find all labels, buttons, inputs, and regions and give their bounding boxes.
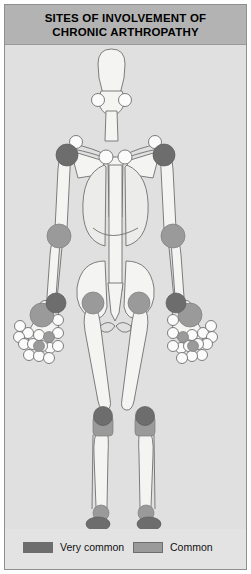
mcp-thumb-left-marker [44, 332, 55, 343]
hand-left-joint [44, 353, 55, 364]
hip-left-marker [82, 292, 104, 314]
figure-frame: SITES OF INVOLVEMENT OF CHRONIC ARTHROPA… [4, 4, 247, 570]
legend-label-very-common: Very common [60, 541, 124, 553]
legend-item-common: Common [133, 541, 213, 553]
skeleton-illustration: .bone { fill:#f4f4f2; stroke:#6f6f6f; st… [5, 45, 246, 529]
hand-right-joint [168, 328, 179, 339]
thoracolumbar-spine [109, 165, 122, 291]
tibia-left [94, 430, 109, 515]
hand-right-joint [168, 341, 179, 352]
tmj-right-marker [119, 94, 132, 107]
title-line-1: SITES OF INVOLVEMENT OF [45, 11, 207, 25]
hand-right-joint [206, 321, 217, 332]
title-line-2: CHRONIC ARTHROPATHY [52, 25, 199, 39]
sc-joint-right-marker [118, 150, 132, 164]
mcp-index-right-marker [188, 341, 199, 352]
hand-left-joint [24, 350, 35, 361]
skeleton-bones [28, 49, 203, 529]
ankle-joint-left-marker [86, 517, 110, 529]
sc-joint-left-marker [99, 150, 113, 164]
figure-legend: Very common Common [5, 529, 246, 569]
elbow-left-marker [47, 224, 71, 248]
fibula-right [154, 435, 155, 509]
tmj-left-marker [92, 94, 105, 107]
fibula-left [92, 435, 93, 509]
hip-right-marker [128, 292, 150, 314]
mcp-thumb-right-marker [178, 332, 189, 343]
cervical-spine [105, 111, 118, 141]
hand-right-joint [197, 350, 208, 361]
arthropathy-figure: SITES OF INVOLVEMENT OF CHRONIC ARTHROPA… [0, 0, 251, 574]
knee-patella-left-marker [94, 407, 113, 426]
very-common-swatch [23, 542, 53, 553]
common-swatch [133, 542, 163, 553]
wrist-ulnar-left-marker [46, 293, 66, 313]
ankle-joint-right-marker [137, 517, 161, 529]
figure-title-band: SITES OF INVOLVEMENT OF CHRONIC ARTHROPA… [5, 5, 246, 45]
hand-right-joint [168, 315, 179, 326]
hand-right-joint [187, 351, 198, 362]
tibia-right [139, 430, 154, 515]
hand-left-joint [15, 321, 26, 332]
legend-item-very-common: Very common [23, 541, 124, 553]
knee-patella-right-marker [136, 407, 155, 426]
legend-label-common: Common [170, 541, 213, 553]
shoulder-right-marker [153, 144, 175, 166]
skeleton-diagram-area: .bone { fill:#f4f4f2; stroke:#6f6f6f; st… [5, 45, 246, 529]
hand-right-joint [177, 353, 188, 364]
pubic-ring-left [100, 323, 115, 333]
hand-left-joint [34, 351, 45, 362]
pubic-ring-right [116, 323, 131, 333]
elbow-right-marker [161, 224, 185, 248]
sacrum [108, 283, 123, 321]
hand-left-joint [53, 341, 64, 352]
mcp-index-left-marker [34, 341, 45, 352]
wrist-ulnar-right-marker [166, 293, 186, 313]
shoulder-left-marker [56, 144, 78, 166]
